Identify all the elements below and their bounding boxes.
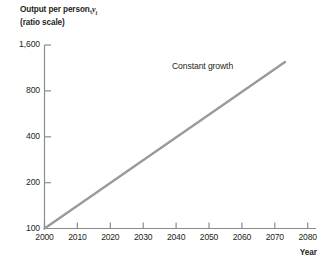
constant-growth-line xyxy=(45,62,286,229)
x-tick-label-2080: 2080 xyxy=(288,232,325,242)
y-axis-ticks xyxy=(45,45,52,183)
plot-area xyxy=(0,0,325,270)
y-tick-label-800: 800 xyxy=(0,85,40,95)
constant-growth-annotation: Constant growth xyxy=(172,61,233,71)
chart-figure: Output per person,yt (ratio scale) xyxy=(0,0,325,270)
y-tick-label-1600: 1,600 xyxy=(0,39,40,49)
y-tick-label-200: 200 xyxy=(0,177,40,187)
x-axis-title: Year xyxy=(300,248,317,257)
y-tick-label-400: 400 xyxy=(0,131,40,141)
x-axis-ticks xyxy=(45,223,308,229)
